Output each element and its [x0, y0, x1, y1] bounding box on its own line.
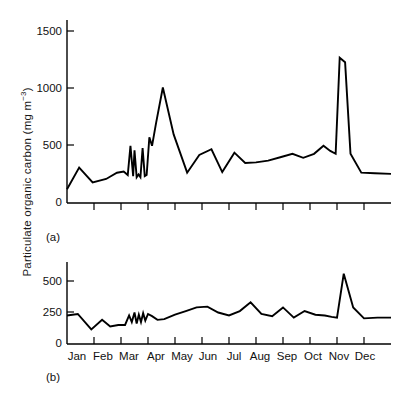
panel-b-axes	[67, 262, 391, 344]
figure-container: Particulate organic carbon (mg m−3) 1500…	[0, 0, 417, 398]
chart-svg	[0, 0, 417, 398]
panel-b-data-line	[67, 274, 391, 330]
panel-a-data-line	[67, 58, 391, 190]
panel-a-axes	[67, 20, 391, 210]
